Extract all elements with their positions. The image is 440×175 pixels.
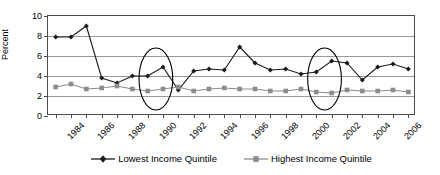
data-point-diamond (53, 35, 58, 40)
data-point-square (145, 89, 150, 94)
series-lowest-income-quintile (53, 24, 411, 93)
x-axis-tick-label: 1992 (188, 121, 209, 142)
data-point-diamond (145, 74, 150, 79)
x-axis-tick-label: 2004 (372, 121, 393, 142)
data-point-square (299, 87, 304, 92)
data-point-square (237, 87, 242, 92)
data-point-square (84, 87, 89, 92)
data-point-square (176, 85, 181, 90)
x-axis-tick-label: 2002 (342, 121, 363, 142)
data-point-diamond (268, 68, 273, 73)
x-axis-tick-label: 1986 (96, 121, 117, 142)
square-marker-icon (243, 153, 269, 165)
y-axis-tick-label: 2 (37, 92, 42, 101)
x-axis-tick-label: 1984 (66, 121, 87, 142)
x-axis-tick-label: 1996 (250, 121, 271, 142)
data-point-square (191, 89, 196, 94)
data-point-square (345, 88, 350, 93)
legend-entry-lowest-income-quintile: Lowest Income Quintile (90, 153, 217, 165)
legend-entry-highest-income-quintile: Highest Income Quintile (243, 153, 372, 165)
x-axis-tick-label: 1988 (127, 121, 148, 142)
legend-label-highest-income-quintile: Highest Income Quintile (271, 154, 372, 164)
data-point-square (375, 89, 380, 94)
data-point-square (253, 87, 258, 92)
data-point-diamond (406, 67, 411, 72)
data-point-square (222, 86, 227, 91)
data-point-square (314, 90, 319, 95)
data-point-square (115, 84, 120, 89)
data-point-square (207, 87, 212, 92)
x-axis-tick-label: 1990 (158, 121, 179, 142)
data-point-square (161, 87, 166, 92)
chart-legend: Lowest Income Quintile Highest Income Qu… (47, 151, 415, 167)
data-point-square (391, 88, 396, 93)
x-axis-tick-label: 2000 (311, 121, 332, 142)
y-axis-tick-label: 0 (37, 112, 42, 121)
data-point-square (69, 82, 74, 87)
x-axis-tick-label: 1998 (280, 121, 301, 142)
data-point-square (329, 91, 334, 96)
data-point-square (53, 85, 58, 90)
y-axis-tick-label: 4 (37, 72, 42, 81)
x-axis-labels: 1984198619881990199219941996199820002002… (47, 121, 415, 149)
data-point-diamond (391, 62, 396, 67)
data-point-diamond (299, 72, 304, 77)
plot-area: 0246810 (47, 15, 415, 115)
data-point-diamond (99, 76, 104, 81)
data-point-square (268, 89, 273, 94)
line-chart: Percent 0246810 198419861988199019921994… (0, 0, 440, 175)
data-point-diamond (130, 74, 135, 79)
series-layer (48, 16, 416, 116)
diamond-marker-icon (90, 153, 116, 165)
y-axis-tick-label: 6 (37, 52, 42, 61)
series-highest-income-quintile (53, 82, 410, 96)
y-axis-title: Percent (1, 15, 10, 75)
y-axis-tick (44, 116, 48, 117)
y-axis-tick-label: 10 (32, 12, 42, 21)
data-point-diamond (207, 67, 212, 72)
data-point-square (283, 89, 288, 94)
data-point-square (99, 86, 104, 91)
series-line (56, 84, 409, 93)
data-point-square (406, 90, 411, 95)
data-point-diamond (283, 67, 288, 72)
series-line (56, 26, 409, 90)
y-axis-tick-label: 8 (37, 32, 42, 41)
data-point-square (360, 89, 365, 94)
legend-label-lowest-income-quintile: Lowest Income Quintile (118, 154, 217, 164)
x-axis-tick-label: 1994 (219, 121, 240, 142)
x-axis-tick-label: 2006 (403, 121, 424, 142)
data-point-square (130, 87, 135, 92)
